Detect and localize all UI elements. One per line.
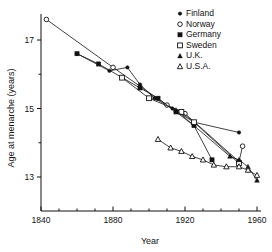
data-point — [111, 65, 116, 70]
y-tick-label: 17 — [25, 35, 35, 45]
y-tick-label: 13 — [25, 172, 35, 182]
data-point — [138, 86, 142, 90]
legend-label: Finland — [186, 8, 214, 18]
data-point — [240, 144, 245, 149]
legend-label: Sweden — [186, 40, 217, 50]
data-point — [156, 96, 160, 100]
legend-label: Germany — [186, 29, 222, 39]
y-axis-title: Age at menarche (years) — [6, 68, 16, 167]
x-axis-title: Year — [141, 236, 159, 246]
data-point — [120, 75, 125, 80]
legend-marker-open-circle-icon — [178, 22, 183, 27]
x-tick-label: 1840 — [32, 215, 51, 225]
data-point — [44, 17, 49, 22]
y-tick-label: 15 — [25, 104, 35, 114]
menarche-trend-chart: 1315171840188019201960 FinlandNorwayGerm… — [0, 0, 272, 252]
legend-marker-open-square-icon — [178, 43, 183, 48]
legend-label: U.S.A. — [186, 61, 211, 71]
legend-label: U.K. — [186, 50, 203, 60]
legend-marker-filled-square-icon — [178, 33, 182, 37]
data-point — [126, 66, 129, 69]
x-tick-label: 1960 — [248, 215, 267, 225]
x-tick-label: 1920 — [176, 215, 195, 225]
data-point — [237, 131, 240, 134]
legend-marker-filled-circle-icon — [178, 12, 181, 15]
data-point — [210, 158, 214, 162]
legend-label: Norway — [186, 19, 216, 29]
x-tick-label: 1880 — [104, 215, 123, 225]
data-point — [75, 52, 79, 56]
data-point — [147, 96, 152, 101]
data-point — [97, 62, 101, 66]
